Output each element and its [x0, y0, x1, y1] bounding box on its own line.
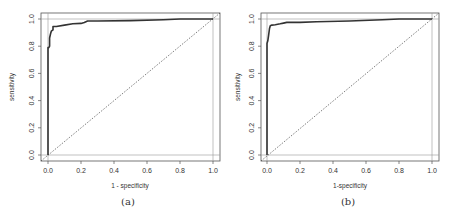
y-tick-label: 0.2 [28, 123, 35, 133]
y-tick-label: 0.8 [28, 41, 35, 51]
panel-caption: (a) [121, 196, 135, 207]
roc-panel-a: 0.00.20.40.60.81.0 0.00.20.40.60.81.0 se… [8, 13, 220, 207]
x-tick-label: 0.8 [394, 167, 404, 174]
x-axis: 0.00.20.40.60.81.0 [262, 161, 437, 174]
y-tick-label: 0.0 [28, 150, 35, 160]
diagonal-reference [261, 13, 439, 161]
x-tick-label: 1.0 [427, 167, 437, 174]
diagonal-reference [41, 13, 220, 161]
x-axis: 0.00.20.40.60.81.0 [43, 161, 218, 174]
x-tick-label: 0.0 [43, 167, 53, 174]
y-axis: 0.00.20.40.60.81.0 [28, 14, 41, 160]
reference-lines [41, 13, 220, 161]
x-tick-label: 0.6 [361, 167, 371, 174]
y-tick-label: 0.4 [248, 96, 255, 106]
y-tick-label: 0.2 [248, 123, 255, 133]
panel-caption: (b) [341, 196, 355, 207]
y-axis-label: sensitivity [8, 72, 16, 101]
y-tick-label: 0.8 [248, 41, 255, 51]
plot-frame [41, 13, 220, 161]
y-tick-label: 1.0 [248, 14, 255, 24]
y-tick-label: 1.0 [28, 14, 35, 24]
x-tick-label: 0.4 [109, 167, 119, 174]
x-tick-label: 1.0 [208, 167, 218, 174]
plot-frame [261, 13, 439, 161]
x-tick-label: 0.8 [175, 167, 185, 174]
x-tick-label: 0.2 [76, 167, 86, 174]
x-tick-label: 0.6 [142, 167, 152, 174]
roc-curve [48, 19, 213, 155]
y-tick-label: 0.6 [248, 68, 255, 78]
x-axis-label: 1 - specificity [111, 182, 149, 190]
x-tick-label: 0.0 [262, 167, 272, 174]
x-tick-label: 0.2 [295, 167, 305, 174]
reference-lines [261, 13, 439, 161]
x-axis-label: 1-specificity [333, 182, 368, 190]
roc-panel-b: 0.00.20.40.60.81.0 0.00.20.40.60.81.0 se… [234, 13, 439, 207]
x-tick-label: 0.4 [328, 167, 338, 174]
y-tick-label: 0.4 [28, 96, 35, 106]
y-axis-label: sensitivity [234, 72, 242, 101]
y-tick-label: 0.0 [248, 150, 255, 160]
y-tick-label: 0.6 [28, 68, 35, 78]
figure: 0.00.20.40.60.81.0 0.00.20.40.60.81.0 se… [0, 0, 456, 217]
y-axis: 0.00.20.40.60.81.0 [248, 14, 261, 160]
